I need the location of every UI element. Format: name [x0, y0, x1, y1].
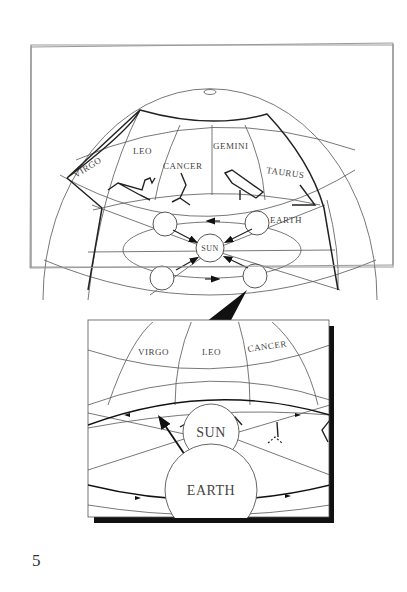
zodiac-band	[67, 110, 338, 290]
label-leo: LEO	[133, 146, 152, 156]
inset-label-earth: EARTH	[187, 483, 235, 498]
label-cancer: CANCER	[163, 161, 203, 171]
label-earth: EARTH	[270, 215, 302, 225]
zodiac-celestial-sphere-diagram: VIRGO LEO CANCER GEMINI TAURUS EARTH SUN	[0, 0, 407, 592]
inset-label-virgo: VIRGO	[138, 347, 169, 357]
page-number: 5	[32, 551, 41, 571]
inset-label-sun: SUN	[196, 425, 226, 440]
label-gemini: GEMINI	[213, 141, 249, 151]
label-sun: SUN	[201, 244, 219, 253]
label-taurus: TAURUS	[266, 165, 305, 180]
frame-border	[30, 43, 393, 267]
sphere-labels: VIRGO LEO CANCER GEMINI TAURUS EARTH	[72, 141, 305, 225]
inset-label-leo: LEO	[202, 347, 221, 357]
